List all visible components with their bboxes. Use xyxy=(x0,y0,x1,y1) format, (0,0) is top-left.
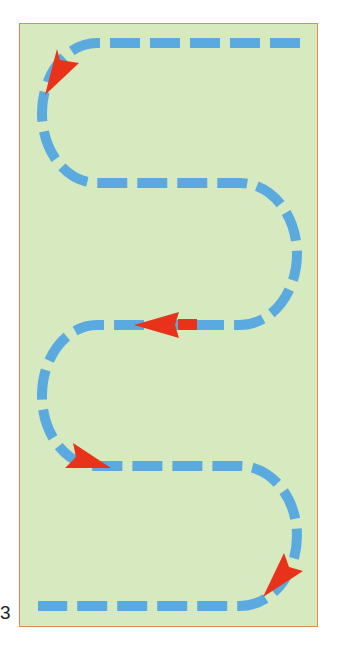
arrow-bottom-right-turn-icon xyxy=(263,553,303,597)
arrow-middle-row-icon xyxy=(134,312,197,338)
figure-number-label: 3 xyxy=(0,603,11,622)
serpentine-path-diagram xyxy=(0,0,344,646)
